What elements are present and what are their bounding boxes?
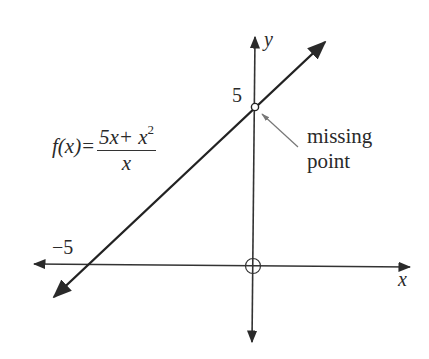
y-axis-label: y — [264, 28, 273, 51]
formula-denominator: x — [122, 151, 131, 175]
missing-point-label-line2: point — [307, 149, 350, 174]
y-intercept-label: 5 — [232, 84, 242, 107]
annotation-arrow — [262, 114, 298, 147]
x-axis-label: x — [398, 268, 407, 291]
y-axis — [252, 37, 255, 342]
formula-exponent: 2 — [148, 122, 155, 137]
missing-point-marker — [251, 103, 258, 110]
missing-point-label-line1: missing — [307, 124, 372, 149]
function-formula: f(x) = 5x+ x2 x — [52, 118, 156, 175]
x-axis — [34, 264, 410, 267]
formula-numerator: 5x+ x2 — [97, 118, 156, 151]
formula-fraction: 5x+ x2 x — [97, 118, 156, 175]
x-intercept-label: −5 — [52, 236, 73, 259]
formula-equals: = — [82, 134, 94, 159]
formula-lhs: f(x) — [52, 134, 81, 159]
graph-canvas — [0, 0, 429, 359]
